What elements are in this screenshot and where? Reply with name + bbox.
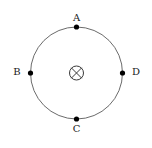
field-into-page-icon bbox=[70, 66, 84, 80]
circle-diagram: A B C D bbox=[0, 0, 152, 148]
point-label-b: B bbox=[13, 66, 20, 77]
point-label-a: A bbox=[72, 12, 81, 23]
point-label-c: C bbox=[73, 123, 81, 134]
point-dot-c bbox=[74, 116, 79, 121]
point-label-d: D bbox=[132, 66, 140, 77]
point-dot-d bbox=[120, 70, 125, 75]
point-dot-a bbox=[74, 24, 79, 29]
point-dot-b bbox=[28, 70, 33, 75]
figure-canvas: A B C D bbox=[0, 0, 152, 148]
